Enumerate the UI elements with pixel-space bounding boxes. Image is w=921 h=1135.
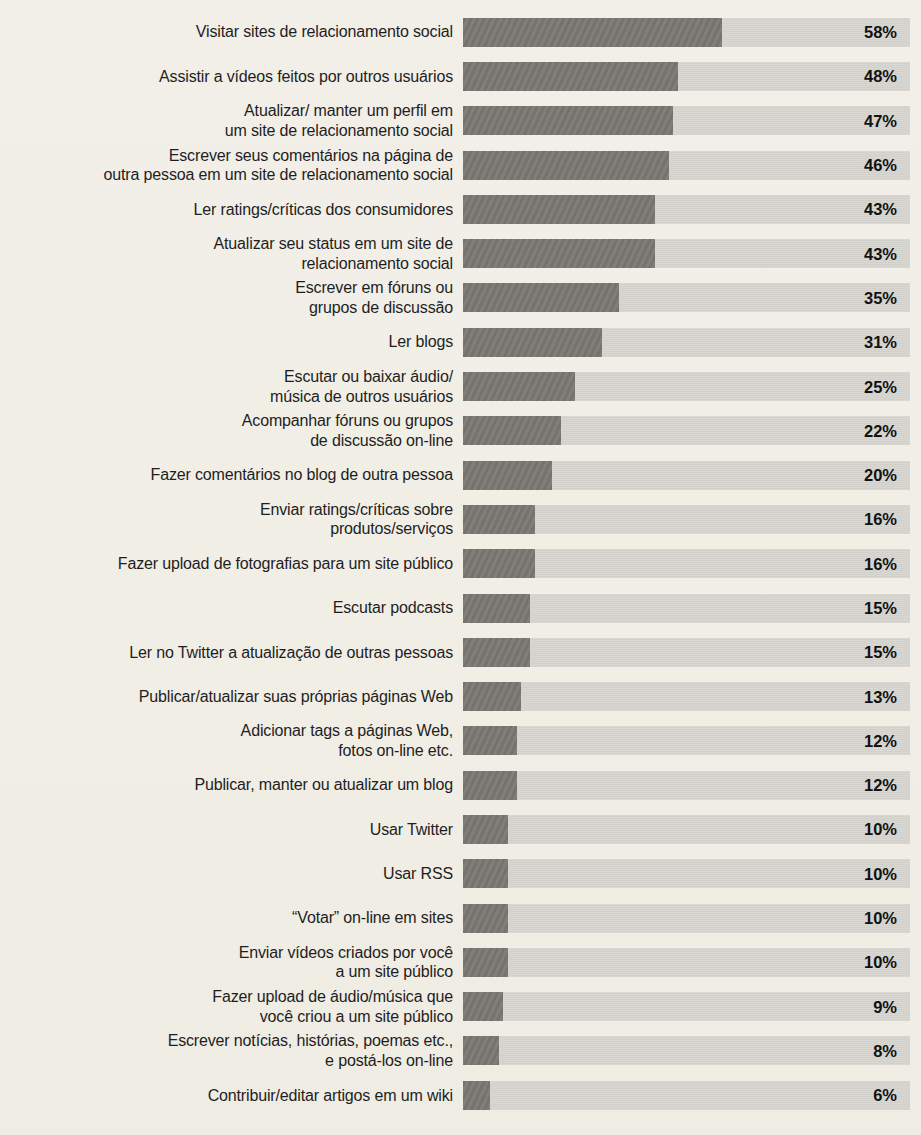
chart-row: Escutar podcasts 15% bbox=[0, 586, 910, 630]
value-label: 9% bbox=[873, 997, 897, 1016]
category-label: Escutar podcasts bbox=[0, 598, 463, 618]
bar-track: 22% bbox=[463, 416, 910, 445]
bar-track: 10% bbox=[463, 815, 910, 844]
bar-fill bbox=[463, 372, 575, 401]
bar-track: 20% bbox=[463, 461, 910, 490]
chart-row: Escrever em fóruns ou grupos de discussã… bbox=[0, 276, 910, 320]
bar-fill bbox=[463, 18, 722, 47]
value-label: 15% bbox=[864, 599, 897, 618]
chart-row: Enviar vídeos criados por você a um site… bbox=[0, 940, 910, 984]
category-label: Usar Twitter bbox=[0, 820, 463, 840]
bar-track: 16% bbox=[463, 549, 910, 578]
value-label: 15% bbox=[864, 643, 897, 662]
value-label: 58% bbox=[864, 23, 897, 42]
chart-row: Atualizar seu status em um site de relac… bbox=[0, 231, 910, 275]
chart-row: Publicar/atualizar suas próprias páginas… bbox=[0, 674, 910, 718]
bar-fill bbox=[463, 948, 508, 977]
value-label: 35% bbox=[864, 288, 897, 307]
chart-row: Ler no Twitter a atualização de outras p… bbox=[0, 630, 910, 674]
chart-row: Fazer comentários no blog de outra pesso… bbox=[0, 453, 910, 497]
category-label: “Votar” on-line em sites bbox=[0, 908, 463, 928]
category-label: Adicionar tags a páginas Web, fotos on-l… bbox=[0, 721, 463, 760]
value-label: 12% bbox=[864, 776, 897, 795]
category-label: Visitar sites de relacionamento social bbox=[0, 22, 463, 42]
value-label: 25% bbox=[864, 377, 897, 396]
bar-track: 58% bbox=[463, 18, 910, 47]
bar-track: 15% bbox=[463, 638, 910, 667]
bar-chart: Visitar sites de relacionamento social 5… bbox=[0, 0, 921, 1117]
chart-row: Fazer upload de áudio/música que você cr… bbox=[0, 985, 910, 1029]
bar-fill bbox=[463, 815, 508, 844]
bar-fill bbox=[463, 106, 673, 135]
chart-row: Enviar ratings/críticas sobre produtos/s… bbox=[0, 497, 910, 541]
bar-track: 13% bbox=[463, 682, 910, 711]
bar-fill bbox=[463, 638, 530, 667]
category-label: Enviar vídeos criados por você a um site… bbox=[0, 943, 463, 982]
bar-fill bbox=[463, 859, 508, 888]
bar-fill bbox=[463, 328, 602, 357]
value-label: 12% bbox=[864, 731, 897, 750]
bar-track: 46% bbox=[463, 151, 910, 180]
bar-fill bbox=[463, 726, 517, 755]
bar-track: 16% bbox=[463, 505, 910, 534]
chart-row: Contribuir/editar artigos em um wiki 6% bbox=[0, 1073, 910, 1117]
value-label: 43% bbox=[864, 244, 897, 263]
bar-track: 35% bbox=[463, 283, 910, 312]
category-label: Enviar ratings/críticas sobre produtos/s… bbox=[0, 500, 463, 539]
bar-track: 48% bbox=[463, 62, 910, 91]
value-label: 22% bbox=[864, 421, 897, 440]
value-label: 43% bbox=[864, 200, 897, 219]
value-label: 20% bbox=[864, 466, 897, 485]
chart-row: Usar RSS 10% bbox=[0, 852, 910, 896]
bar-track: 9% bbox=[463, 992, 910, 1021]
category-label: Atualizar/ manter um perfil em um site d… bbox=[0, 101, 463, 140]
value-label: 48% bbox=[864, 67, 897, 86]
bar-track: 43% bbox=[463, 239, 910, 268]
chart-row: Escrever notícias, histórias, poemas etc… bbox=[0, 1029, 910, 1073]
category-label: Publicar, manter ou atualizar um blog bbox=[0, 775, 463, 795]
chart-row: Escutar ou baixar áudio/ música de outro… bbox=[0, 364, 910, 408]
bar-track: 8% bbox=[463, 1036, 910, 1065]
bar-fill bbox=[463, 416, 561, 445]
bar-fill bbox=[463, 461, 552, 490]
bar-track: 10% bbox=[463, 904, 910, 933]
category-label: Usar RSS bbox=[0, 864, 463, 884]
category-label: Atualizar seu status em um site de relac… bbox=[0, 234, 463, 273]
bar-fill bbox=[463, 771, 517, 800]
value-label: 10% bbox=[864, 909, 897, 928]
bar-fill bbox=[463, 1036, 499, 1065]
chart-row: Assistir a vídeos feitos por outros usuá… bbox=[0, 54, 910, 98]
bar-track: 12% bbox=[463, 771, 910, 800]
category-label: Publicar/atualizar suas próprias páginas… bbox=[0, 687, 463, 707]
value-label: 16% bbox=[864, 554, 897, 573]
chart-row: Publicar, manter ou atualizar um blog 12… bbox=[0, 763, 910, 807]
category-label: Escutar ou baixar áudio/ música de outro… bbox=[0, 367, 463, 406]
value-label: 13% bbox=[864, 687, 897, 706]
category-label: Acompanhar fóruns ou grupos de discussão… bbox=[0, 411, 463, 450]
bar-fill bbox=[463, 151, 669, 180]
category-label: Ler no Twitter a atualização de outras p… bbox=[0, 643, 463, 663]
bar-fill bbox=[463, 505, 535, 534]
bar-fill bbox=[463, 992, 503, 1021]
bar-track: 15% bbox=[463, 594, 910, 623]
bar-fill bbox=[463, 195, 655, 224]
category-label: Ler ratings/críticas dos consumidores bbox=[0, 200, 463, 220]
value-label: 10% bbox=[864, 820, 897, 839]
bar-track: 6% bbox=[463, 1081, 910, 1110]
chart-row: “Votar” on-line em sites 10% bbox=[0, 896, 910, 940]
category-label: Fazer upload de fotografias para um site… bbox=[0, 554, 463, 574]
chart-row: Ler blogs 31% bbox=[0, 320, 910, 364]
bar-fill bbox=[463, 682, 521, 711]
category-label: Fazer upload de áudio/música que você cr… bbox=[0, 987, 463, 1026]
bar-fill bbox=[463, 239, 655, 268]
chart-row: Atualizar/ manter um perfil em um site d… bbox=[0, 99, 910, 143]
value-label: 47% bbox=[864, 111, 897, 130]
category-label: Escrever seus comentários na página de o… bbox=[0, 146, 463, 185]
value-label: 46% bbox=[864, 156, 897, 175]
category-label: Contribuir/editar artigos em um wiki bbox=[0, 1086, 463, 1106]
value-label: 16% bbox=[864, 510, 897, 529]
chart-row: Usar Twitter 10% bbox=[0, 807, 910, 851]
chart-row: Ler ratings/críticas dos consumidores 43… bbox=[0, 187, 910, 231]
value-label: 10% bbox=[864, 953, 897, 972]
chart-row: Acompanhar fóruns ou grupos de discussão… bbox=[0, 409, 910, 453]
